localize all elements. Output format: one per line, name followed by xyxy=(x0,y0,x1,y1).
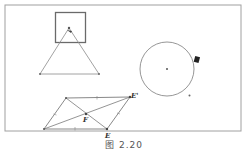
selection-square[interactable] xyxy=(56,13,86,43)
circle-center-point[interactable] xyxy=(166,68,168,70)
circle-drag-handle[interactable] xyxy=(194,56,200,63)
label-f: F xyxy=(82,115,89,124)
triangle-left-side xyxy=(40,28,69,74)
geometry-figure: E' E F xyxy=(0,0,248,152)
triangle-base-right-point[interactable] xyxy=(98,73,100,75)
pencil-cursor-icon xyxy=(67,30,72,33)
triangle-right-side xyxy=(69,28,99,74)
parallelogram-construction: E' E F xyxy=(43,91,138,140)
square-triangle-construction xyxy=(39,13,100,76)
triangle-base-left-point[interactable] xyxy=(39,73,41,75)
vertex-bottom-left[interactable] xyxy=(43,128,45,130)
label-e-prime: E' xyxy=(130,91,138,100)
triangle-apex-point[interactable] xyxy=(68,27,70,29)
figure-frame xyxy=(5,5,241,131)
vertex-e[interactable] xyxy=(106,128,108,130)
circle-construction xyxy=(140,42,200,97)
circle-point[interactable] xyxy=(189,95,191,97)
vertex-top-left[interactable] xyxy=(65,97,67,99)
figure-caption: 图 2.20 xyxy=(0,138,248,151)
